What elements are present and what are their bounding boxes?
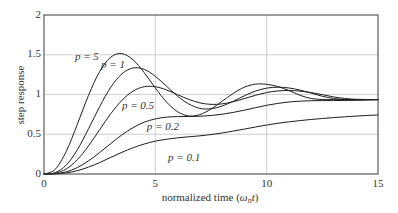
step-response-chart: 051015 00.511.52 p = 5p = 1p = 0.5p = 0.… <box>0 0 398 213</box>
x-axis-label-suffix: ) <box>255 191 259 204</box>
x-tick-label: 15 <box>373 177 385 189</box>
x-axis-label-prefix: normalized time ( <box>162 191 241 204</box>
x-axis-label: normalized time (ωnt) <box>162 191 259 205</box>
curve-p0_2 <box>44 100 378 174</box>
x-tick-label: 5 <box>153 177 159 189</box>
y-axis-label: step response <box>14 65 26 124</box>
y-tick-label: 1.5 <box>27 47 41 59</box>
curves <box>44 54 378 174</box>
y-tick-labels: 00.511.52 <box>27 8 41 179</box>
x-tick-labels: 051015 <box>41 177 384 189</box>
y-tick-label: 0 <box>36 167 42 179</box>
grid <box>44 15 378 174</box>
series-label: p = 0.2 <box>146 120 180 132</box>
y-tick-label: 0.5 <box>27 127 41 139</box>
series-label: p = 1 <box>100 58 125 70</box>
series-label: p = 0.5 <box>121 99 155 111</box>
curve-p0_1 <box>44 115 378 174</box>
y-tick-label: 2 <box>36 8 42 20</box>
series-label: p = 0.1 <box>167 151 200 163</box>
x-tick-label: 10 <box>261 177 273 189</box>
curve-p5 <box>44 54 378 174</box>
y-tick-label: 1 <box>36 87 42 99</box>
x-tick-label: 0 <box>41 177 47 189</box>
series-label: p = 5 <box>74 50 99 62</box>
